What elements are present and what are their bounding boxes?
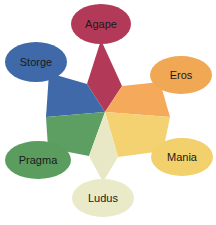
node-mania[interactable]: Mania xyxy=(151,138,213,176)
node-ellipse-agape[interactable] xyxy=(71,4,131,44)
node-ellipse-pragma[interactable] xyxy=(5,141,71,179)
node-storge[interactable]: Storge xyxy=(5,42,67,82)
node-pragma[interactable]: Pragma xyxy=(5,141,71,179)
node-ellipse-eros[interactable] xyxy=(150,56,212,94)
node-ellipse-storge[interactable] xyxy=(5,42,67,82)
node-ellipse-ludus[interactable] xyxy=(72,179,134,217)
node-agape[interactable]: Agape xyxy=(71,4,131,44)
node-ellipse-mania[interactable] xyxy=(151,138,213,176)
node-ludus[interactable]: Ludus xyxy=(72,179,134,217)
love-styles-diagram: Agape Storge Eros Mania Pragma xyxy=(0,0,216,225)
love-styles-svg: Agape Storge Eros Mania Pragma xyxy=(0,0,216,225)
node-eros[interactable]: Eros xyxy=(150,56,212,94)
